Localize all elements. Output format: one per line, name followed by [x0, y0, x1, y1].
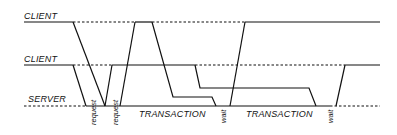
wait-label-1: wait	[219, 109, 228, 123]
signal-paths	[73, 22, 345, 106]
request-label-1: request	[89, 99, 98, 125]
lane-label-client-2: CLIENT	[24, 54, 59, 64]
wait-label-2: wait	[326, 109, 335, 123]
lane-label-server: SERVER	[28, 94, 66, 104]
transaction-label-2: TRANSACTION	[246, 109, 313, 119]
timing-diagram: CLIENT CLIENT SERVER	[0, 0, 397, 135]
lane-label-client-1: CLIENT	[24, 11, 59, 21]
request-label-2: request	[111, 99, 120, 125]
transaction-label-1: TRANSACTION	[139, 109, 206, 119]
